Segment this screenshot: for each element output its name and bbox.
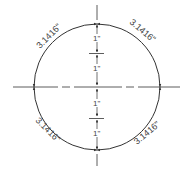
arc-label-bottom-left: 3.1416" [34, 115, 63, 144]
radius-label-lower-inner: 1" [93, 99, 100, 108]
arc-label-bottom-right: 3.1416" [132, 119, 162, 146]
radius-label-upper-inner: 1" [93, 64, 100, 73]
circle-circumference-diagram: 3.1416" 3.1416" 3.1416" 3.1416" 1" 1" 1"… [0, 0, 184, 171]
radius-label-lower-outer: 1" [93, 129, 100, 138]
arc-label-top-right: 3.1416" [128, 17, 158, 44]
radius-label-upper-outer: 1" [93, 34, 100, 43]
